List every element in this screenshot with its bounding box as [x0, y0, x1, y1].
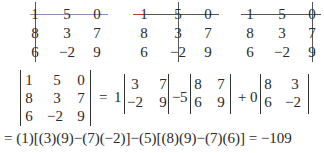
minor-1: 3 7 −2 9 [124, 74, 168, 114]
cell-r2c2: −2 [282, 95, 304, 110]
cell-r3c2: −2 [57, 45, 77, 60]
minor-2: 8 7 6 9 [190, 74, 230, 114]
cell-r1c3: 0 [70, 73, 92, 88]
cell-r1c3: 0 [87, 7, 107, 22]
cell-r2c2: 3 [272, 26, 292, 41]
minor-3: 8 3 6 −2 [260, 74, 308, 114]
cell-r3c1: 6 [25, 45, 45, 60]
term-1-coefficient: 1 [114, 90, 122, 105]
minor-panel-2: 1 5 0 8 3 7 6 −2 9 [131, 2, 221, 64]
cell-r2c2: 3 [57, 26, 77, 41]
cell-r1c3: 0 [302, 7, 322, 22]
cell-r3c1: 6 [18, 109, 40, 124]
cell-r3c2: −2 [44, 109, 66, 124]
cell-r3c3: 9 [198, 45, 218, 60]
cell-r1c2: 7 [210, 77, 232, 92]
cell-r2c2: 3 [168, 26, 188, 41]
equals-sign: = [99, 90, 107, 105]
right-bar [308, 74, 309, 114]
cell-r2c1: 8 [240, 26, 260, 41]
cell-r2c1: 8 [18, 91, 40, 106]
cell-r3c3: 9 [87, 45, 107, 60]
cell-r2c3: 7 [70, 91, 92, 106]
cell-r1c2: 3 [284, 77, 306, 92]
cell-r1c1: 8 [257, 77, 279, 92]
minor-panel-1: 1 5 0 8 3 7 6 −2 9 [22, 2, 112, 64]
cell-r1c1: 1 [240, 7, 260, 22]
cell-r1c2: 5 [57, 7, 77, 22]
cell-r3c1: 6 [240, 45, 260, 60]
cell-r2c2: 9 [152, 95, 174, 110]
cell-r3c2: −2 [272, 45, 292, 60]
cell-r1c2: 5 [46, 73, 68, 88]
main-determinant: 1 5 0 8 3 7 6 −2 9 [20, 70, 90, 126]
cell-r2c2: 9 [210, 95, 232, 110]
cell-r1c3: 0 [198, 7, 218, 22]
cell-r1c2: 5 [168, 7, 188, 22]
cell-r2c1: 6 [187, 95, 209, 110]
cell-r2c1: −2 [124, 95, 146, 110]
cell-r2c3: 7 [198, 26, 218, 41]
cell-r3c3: 9 [70, 109, 92, 124]
cell-r1c1: 1 [134, 7, 154, 22]
cell-r1c1: 8 [187, 77, 209, 92]
cell-r2c2: 3 [46, 91, 68, 106]
cell-r2c3: 7 [302, 26, 322, 41]
cell-r2c1: 6 [257, 95, 279, 110]
cell-r3c3: 9 [302, 45, 322, 60]
cell-r1c2: 5 [272, 7, 292, 22]
cell-r1c1: 1 [18, 73, 40, 88]
cell-r3c2: −2 [168, 45, 188, 60]
cell-r2c1: 8 [134, 26, 154, 41]
cell-r3c1: 6 [134, 45, 154, 60]
cell-r2c1: 8 [25, 26, 45, 41]
term-3-sign: + [238, 90, 246, 105]
final-computation: = (1)[(3)(9)−(7)(−2)]−(5)[(8)(9)−(7)(6)]… [4, 130, 292, 146]
cell-r1c1: 1 [25, 7, 45, 22]
cell-r1c1: 3 [124, 77, 146, 92]
minor-panel-3: 1 5 0 8 3 7 6 −2 9 [237, 2, 324, 64]
cell-r2c3: 7 [87, 26, 107, 41]
cell-r1c2: 7 [152, 77, 174, 92]
